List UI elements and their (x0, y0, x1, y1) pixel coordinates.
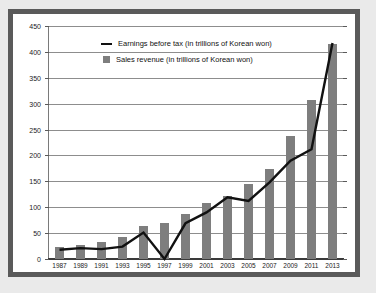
y-tick-mark-right-50 (343, 233, 347, 234)
chart-legend: Earnings before tax (in trillions of Kor… (101, 40, 272, 71)
y-tick-label-450: 450 (29, 23, 41, 30)
x-tick-label-1989: 1989 (73, 262, 87, 269)
chart-page: 050100150200250300350400450 198719891991… (0, 0, 376, 293)
y-tick-label-50: 50 (33, 230, 41, 237)
legend-label-earnings: Earnings before tax (in trillions of Kor… (118, 40, 272, 48)
legend-label-sales: Sales revenue (in trillions of Korean wo… (116, 56, 253, 64)
x-tick-label-2013: 2013 (325, 262, 339, 269)
y-tick-label-250: 250 (29, 126, 41, 133)
x-tick-label-2003: 2003 (220, 262, 234, 269)
x-tick-label-1987: 1987 (52, 262, 66, 269)
x-tick-label-1991: 1991 (94, 262, 108, 269)
y-tick-mark-right-150 (343, 181, 347, 182)
y-tick-mark-right-400 (343, 52, 347, 53)
y-tick-mark-right-200 (343, 155, 347, 156)
y-tick-mark-right-250 (343, 130, 347, 131)
x-tick-label-1999: 1999 (178, 262, 192, 269)
y-tick-mark-right-450 (343, 26, 347, 27)
x-tick-label-1997: 1997 (157, 262, 171, 269)
y-tick-label-200: 200 (29, 152, 41, 159)
y-tick-label-400: 400 (29, 48, 41, 55)
line-marker-icon (101, 43, 112, 46)
chart-frame: 050100150200250300350400450 198719891991… (8, 9, 360, 277)
y-tick-mark-right-300 (343, 104, 347, 105)
y-tick-mark-right-100 (343, 207, 347, 208)
x-tick-label-2009: 2009 (283, 262, 297, 269)
x-tick-label-2001: 2001 (199, 262, 213, 269)
x-tick-label-2007: 2007 (262, 262, 276, 269)
y-tick-mark-right-350 (343, 78, 347, 79)
x-tick-label-2011: 2011 (305, 262, 319, 269)
x-tick-label-1993: 1993 (115, 262, 129, 269)
y-tick-label-150: 150 (29, 178, 41, 185)
legend-item-earnings: Earnings before tax (in trillions of Kor… (101, 40, 272, 48)
square-marker-icon (103, 56, 110, 63)
y-tick-label-100: 100 (29, 204, 41, 211)
chart-canvas: 050100150200250300350400450 198719891991… (13, 14, 355, 272)
y-tick-mark-0 (45, 259, 49, 260)
y-tick-label-300: 300 (29, 100, 41, 107)
y-tick-label-0: 0 (37, 256, 41, 263)
legend-item-sales: Sales revenue (in trillions of Korean wo… (101, 56, 272, 64)
gridline-0 (49, 259, 343, 260)
x-tick-label-2005: 2005 (241, 262, 255, 269)
y-tick-label-350: 350 (29, 74, 41, 81)
y-tick-mark-right-0 (343, 259, 347, 260)
x-tick-label-1995: 1995 (136, 262, 150, 269)
